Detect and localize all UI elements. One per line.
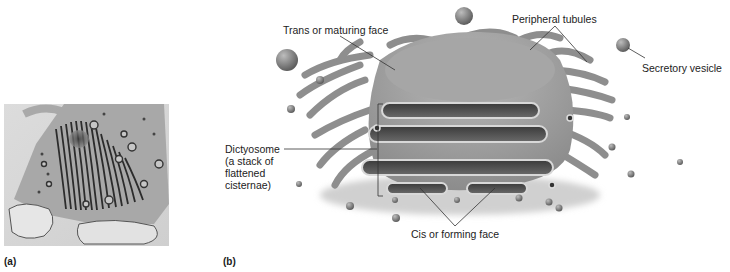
panel-label-b: (b): [223, 256, 236, 267]
label-dictyosome-4: cisternae): [225, 179, 271, 191]
label-trans-face: Trans or maturing face: [283, 24, 388, 36]
golgi-illustration: [0, 0, 730, 272]
label-cis-face: Cis or forming face: [411, 228, 499, 240]
vesicle-large-left: [276, 49, 298, 71]
trans-face-sheet: [385, 38, 555, 102]
label-secretory-vesicle: Secretory vesicle: [642, 62, 722, 74]
label-dictyosome-1: Dictyosome: [225, 143, 280, 155]
secretory-vesicle: [616, 38, 630, 52]
label-dictyosome-3: flattened: [225, 167, 265, 179]
vesicle-large-top: [455, 7, 473, 25]
label-dictyosome-2: (a stack of: [225, 155, 273, 167]
label-peripheral-tubules: Peripheral tubules: [512, 13, 597, 25]
